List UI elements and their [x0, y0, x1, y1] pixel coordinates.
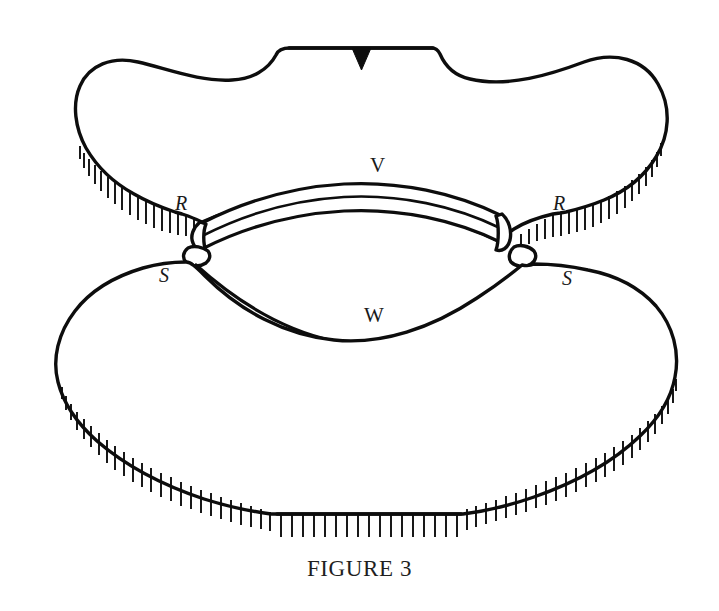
- figure-caption: FIGURE 3: [0, 556, 719, 582]
- label-r-left: R: [175, 193, 187, 213]
- figure-line-art: [0, 0, 719, 611]
- label-w: W: [364, 305, 384, 326]
- lower-base-hatching: [281, 515, 457, 537]
- label-r-right: R: [553, 193, 565, 213]
- junction-r-right-pinch: [496, 214, 511, 251]
- label-s-right: S: [562, 268, 572, 288]
- label-v: V: [370, 155, 385, 176]
- lower-body-outline: [56, 262, 677, 514]
- figure-3-drawing: V W R R S S FIGURE 3: [0, 0, 719, 611]
- label-s-left: S: [159, 265, 169, 285]
